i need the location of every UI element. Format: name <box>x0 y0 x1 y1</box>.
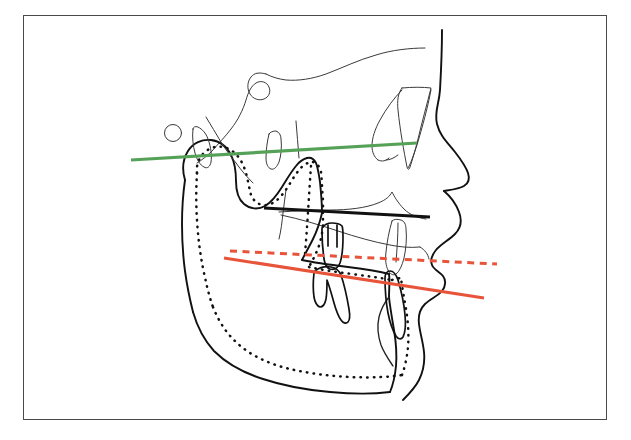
cephalometric-tracing <box>0 0 631 440</box>
mandible-outline-superimposed-dashed <box>196 147 408 378</box>
porion-landmark-circle <box>165 125 182 142</box>
nasal-aperture-outline <box>398 87 431 169</box>
occlusal-plane-pre-treatment <box>230 251 497 264</box>
frankfort-horizontal-plane <box>131 143 417 160</box>
screenshot-root <box>0 0 631 440</box>
maxillary-root-outline <box>193 127 282 170</box>
upper-first-molar <box>322 223 343 269</box>
maxilla-outline <box>279 190 429 259</box>
